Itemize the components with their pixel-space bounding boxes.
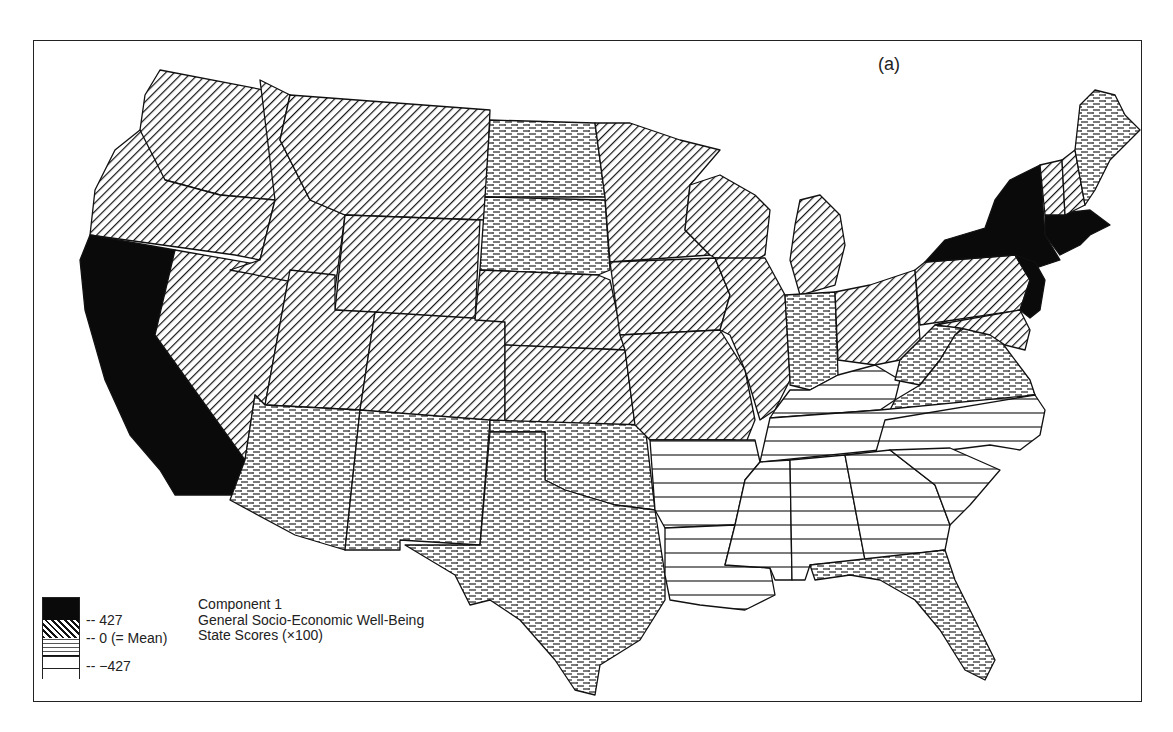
state-new-mexico (345, 410, 490, 550)
legend-title-line-1: Component 1 (198, 597, 424, 613)
legend-swatch-column (42, 597, 80, 679)
legend-title-line-3: State Scores (×100) (198, 628, 424, 644)
legend-title: Component 1 General Socio-Economic Well-… (198, 597, 424, 644)
state-colorado (360, 312, 505, 425)
legend-title-line-2: General Socio-Economic Well-Being (198, 613, 424, 629)
state-iowa (610, 258, 730, 335)
state-michigan (790, 195, 845, 295)
state-florida (810, 550, 995, 680)
legend-break-mean: -- 0 (= Mean) (86, 630, 167, 646)
state-massachusetts (1045, 210, 1110, 255)
legend-swatch-horizontal-lines (43, 655, 79, 680)
panel-label: (a) (878, 54, 900, 75)
state-montana (280, 95, 490, 220)
state-indiana (785, 292, 838, 390)
legend-swatch-dashed (43, 638, 79, 655)
legend-break-427: -- 427 (86, 612, 123, 628)
state-new-york (925, 165, 1060, 270)
legend-swatch-diagonal-hatch (43, 620, 79, 638)
legend-break-neg427: -- −427 (86, 658, 131, 674)
state-ohio (835, 270, 920, 365)
state-vermont (1040, 160, 1065, 215)
state-kansas (505, 345, 635, 425)
us-state-map (0, 0, 1173, 732)
state-wyoming (335, 215, 480, 320)
legend-swatch-solid-black (43, 598, 79, 620)
state-south-dakota (480, 197, 610, 275)
state-maine (1075, 90, 1140, 205)
state-north-dakota (485, 120, 605, 197)
